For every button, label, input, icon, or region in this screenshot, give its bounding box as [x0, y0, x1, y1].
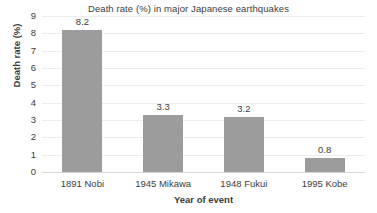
bar-value-label: 0.8 — [295, 145, 355, 155]
bar — [62, 30, 102, 172]
y-axis-tick-label: 5 — [6, 80, 36, 90]
x-axis-title: Year of event — [42, 194, 365, 205]
gridline — [42, 172, 365, 173]
bar — [305, 158, 345, 172]
x-axis-category-label: 1945 Mikawa — [118, 179, 208, 189]
y-axis-tick-label: 4 — [6, 98, 36, 108]
bar-value-label: 8.2 — [52, 17, 112, 27]
bar-value-label: 3.3 — [133, 102, 193, 112]
x-axis-category-label: 1995 Kobe — [280, 179, 370, 189]
bar — [143, 115, 183, 172]
bar-value-label: 3.2 — [214, 104, 274, 114]
y-axis-tick-label: 0 — [6, 167, 36, 177]
y-axis-tick-label: 8 — [6, 28, 36, 38]
y-axis-tick-label: 7 — [6, 46, 36, 56]
y-axis-tick-label: 6 — [6, 63, 36, 73]
y-axis-tick-label: 3 — [6, 115, 36, 125]
x-axis-category-label: 1891 Nobi — [37, 179, 127, 189]
bar — [224, 117, 264, 172]
y-axis-tick-label: 2 — [6, 132, 36, 142]
bar-chart: Death rate (%) in major Japanese earthqu… — [0, 0, 377, 213]
chart-title: Death rate (%) in major Japanese earthqu… — [0, 3, 377, 14]
y-axis-tick-label: 1 — [6, 150, 36, 160]
x-axis-category-label: 1948 Fukui — [199, 179, 289, 189]
y-axis-tick-label: 9 — [6, 11, 36, 21]
